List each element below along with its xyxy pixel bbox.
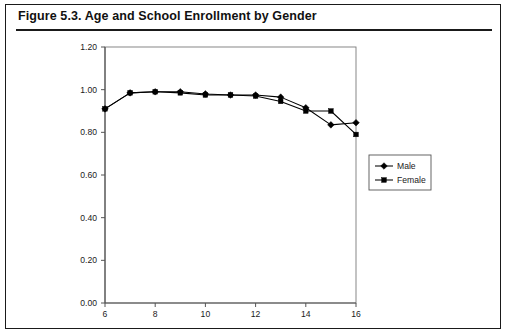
- legend-marker-female: [382, 178, 387, 183]
- x-axis-tick-label: 6: [103, 309, 108, 319]
- y-axis-ticks: 0.000.200.400.600.801.001.20: [80, 42, 105, 308]
- x-axis-tick-label: 16: [351, 309, 361, 319]
- y-axis-tick-label: 0.00: [80, 298, 97, 308]
- legend-label-female: Female: [397, 175, 426, 185]
- data-point-female: [278, 99, 283, 104]
- data-point-female: [178, 91, 183, 96]
- chart-axes: [105, 47, 356, 303]
- y-axis-tick-label: 0.80: [80, 127, 97, 137]
- chart-legend: MaleFemale: [369, 155, 431, 190]
- data-point-female: [329, 109, 334, 114]
- data-point-female: [128, 91, 133, 96]
- data-point-male: [328, 122, 335, 129]
- figure-title-bar: Figure 5.3. Age and School Enrollment by…: [6, 5, 500, 31]
- y-axis-tick-label: 1.20: [80, 42, 97, 52]
- data-point-female: [228, 93, 233, 98]
- data-point-female: [354, 132, 359, 137]
- x-axis-tick-label: 8: [153, 309, 158, 319]
- data-point-female: [304, 109, 309, 114]
- x-axis-tick-label: 14: [301, 309, 311, 319]
- y-axis-tick-label: 1.00: [80, 85, 97, 95]
- chart-series-group: [102, 88, 360, 136]
- page-title: Figure 5.3. Age and School Enrollment by…: [18, 9, 317, 23]
- data-point-female: [203, 93, 208, 98]
- x-axis-ticks: 6810121416: [103, 303, 361, 319]
- x-axis-tick-label: 10: [201, 309, 211, 319]
- line-chart: 0.000.200.400.600.801.001.20 6810121416 …: [6, 31, 502, 328]
- data-point-male: [353, 119, 360, 126]
- x-axis-tick-label: 12: [251, 309, 261, 319]
- data-point-female: [153, 90, 158, 95]
- data-point-female: [253, 94, 258, 99]
- y-axis-tick-label: 0.40: [80, 213, 97, 223]
- chart-plot-region: 0.000.200.400.600.801.001.20 6810121416 …: [6, 31, 502, 328]
- y-axis-tick-label: 0.20: [80, 255, 97, 265]
- y-axis-tick-label: 0.60: [80, 170, 97, 180]
- data-point-female: [103, 107, 108, 112]
- legend-label-male: Male: [397, 161, 416, 171]
- figure-container: Figure 5.3. Age and School Enrollment by…: [5, 4, 501, 329]
